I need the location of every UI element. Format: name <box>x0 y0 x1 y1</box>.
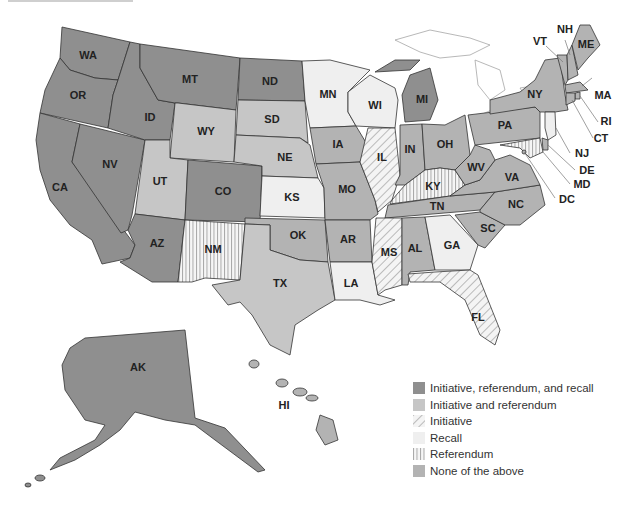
swatch-initiative <box>413 415 425 427</box>
state-MS[interactable]: MS <box>372 218 402 295</box>
svg-text:OR: OR <box>70 89 87 101</box>
state-KS[interactable]: KS <box>260 176 325 218</box>
legend-label: Initiative <box>430 415 472 427</box>
legend-item-none: None of the above <box>413 463 594 480</box>
svg-text:IA: IA <box>333 138 344 150</box>
svg-text:RI: RI <box>601 115 612 127</box>
state-PA[interactable]: PA <box>468 107 540 145</box>
svg-text:MI: MI <box>416 93 428 105</box>
svg-text:MD: MD <box>573 178 590 190</box>
svg-text:SD: SD <box>264 113 279 125</box>
state-NM[interactable]: NM <box>178 220 245 282</box>
legend-item-irr: Initiative, referendum, and recall <box>413 380 594 397</box>
svg-text:VT: VT <box>533 35 547 47</box>
svg-text:CA: CA <box>52 181 68 193</box>
svg-text:VA: VA <box>505 171 520 183</box>
svg-text:AR: AR <box>340 233 356 245</box>
legend-label: Initiative, referendum, and recall <box>430 382 594 394</box>
svg-text:HI: HI <box>279 399 290 411</box>
svg-text:MO: MO <box>338 183 356 195</box>
svg-text:NY: NY <box>527 88 543 100</box>
svg-text:TN: TN <box>430 200 445 212</box>
svg-text:KY: KY <box>425 180 441 192</box>
svg-text:MN: MN <box>319 88 336 100</box>
svg-text:IL: IL <box>377 151 387 163</box>
svg-text:NM: NM <box>204 243 221 255</box>
state-AR[interactable]: AR <box>325 220 372 262</box>
svg-text:NC: NC <box>508 198 524 210</box>
legend-label: Recall <box>430 432 462 444</box>
svg-text:OH: OH <box>437 138 454 150</box>
lake-huron <box>475 60 505 100</box>
svg-text:WI: WI <box>368 99 381 111</box>
state-WY[interactable]: WY <box>170 103 236 162</box>
svg-text:MS: MS <box>381 246 398 258</box>
svg-text:NJ: NJ <box>575 147 589 159</box>
legend-item-initiative: Initiative <box>413 413 594 430</box>
state-FL[interactable]: FL <box>408 270 500 345</box>
svg-text:GA: GA <box>444 239 461 251</box>
svg-text:WA: WA <box>79 49 97 61</box>
svg-text:PA: PA <box>498 119 513 131</box>
svg-text:LA: LA <box>344 277 359 289</box>
svg-text:UT: UT <box>153 175 168 187</box>
state-NJ[interactable] <box>545 112 556 140</box>
state-DE[interactable] <box>542 138 548 150</box>
legend-item-recall: Recall <box>413 430 594 447</box>
svg-text:IN: IN <box>405 143 416 155</box>
svg-text:FL: FL <box>471 311 485 323</box>
legend-label: Referendum <box>430 448 493 460</box>
legend-item-referendum: Referendum <box>413 446 594 463</box>
svg-text:MA: MA <box>594 89 611 101</box>
state-ME[interactable]: ME <box>572 25 600 70</box>
swatch-ir <box>413 399 425 411</box>
svg-text:AZ: AZ <box>150 237 165 249</box>
swatch-none <box>413 465 425 477</box>
svg-text:WY: WY <box>197 125 215 137</box>
swatch-referendum <box>413 448 425 460</box>
svg-text:SC: SC <box>480 222 495 234</box>
state-AK[interactable]: AK <box>25 330 265 487</box>
svg-text:NV: NV <box>102 158 118 170</box>
state-CO[interactable]: CO <box>185 160 262 222</box>
state-IA[interactable]: IA <box>310 126 368 164</box>
svg-text:DC: DC <box>559 193 575 205</box>
state-HI[interactable]: HI <box>249 360 338 445</box>
svg-text:NE: NE <box>277 151 292 163</box>
svg-text:NH: NH <box>557 23 573 35</box>
svg-text:AK: AK <box>130 361 146 373</box>
svg-text:ME: ME <box>578 38 595 50</box>
legend-label: None of the above <box>430 465 524 477</box>
legend: Initiative, referendum, and recall Initi… <box>413 380 594 479</box>
state-ND[interactable]: ND <box>238 58 305 101</box>
lake-superior <box>395 30 490 58</box>
svg-text:OK: OK <box>290 229 307 241</box>
svg-text:WV: WV <box>467 161 485 173</box>
svg-text:AL: AL <box>408 242 423 254</box>
swatch-irr <box>413 382 425 394</box>
swatch-recall <box>413 432 425 444</box>
svg-text:DE: DE <box>579 164 594 176</box>
svg-text:CT: CT <box>594 132 609 144</box>
svg-text:TX: TX <box>273 277 288 289</box>
svg-text:KS: KS <box>284 191 299 203</box>
state-RI[interactable] <box>575 92 580 99</box>
svg-text:ND: ND <box>262 75 278 87</box>
legend-item-ir: Initiative and referendum <box>413 397 594 414</box>
svg-text:CO: CO <box>215 185 232 197</box>
svg-text:ID: ID <box>145 111 156 123</box>
legend-label: Initiative and referendum <box>430 399 557 411</box>
svg-text:MT: MT <box>182 73 198 85</box>
